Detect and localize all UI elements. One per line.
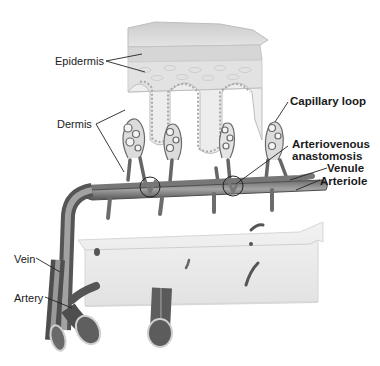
capillary-cluster-1 — [123, 119, 145, 158]
label-artery: Artery — [14, 292, 43, 304]
capillary-cluster-2 — [164, 124, 182, 160]
label-vein: Vein — [14, 253, 35, 265]
label-arteriovenous-line1: Arteriovenous — [292, 138, 370, 150]
label-arteriovenous-line2: anastomosis — [292, 150, 362, 162]
label-capillary-loop: Capillary loop — [290, 95, 366, 107]
capillary-cluster-3 — [219, 123, 234, 158]
vascular-plexus — [80, 176, 327, 218]
label-dermis: Dermis — [57, 118, 92, 130]
dermis-block — [78, 222, 323, 306]
epidermis-layer — [128, 22, 268, 154]
label-venule: Venule — [327, 162, 364, 174]
label-arteriole: Arteriole — [320, 175, 367, 187]
label-epidermis: Epidermis — [55, 55, 104, 67]
capillary-cluster-4 — [265, 122, 283, 160]
vessel-cross-section — [148, 319, 172, 347]
